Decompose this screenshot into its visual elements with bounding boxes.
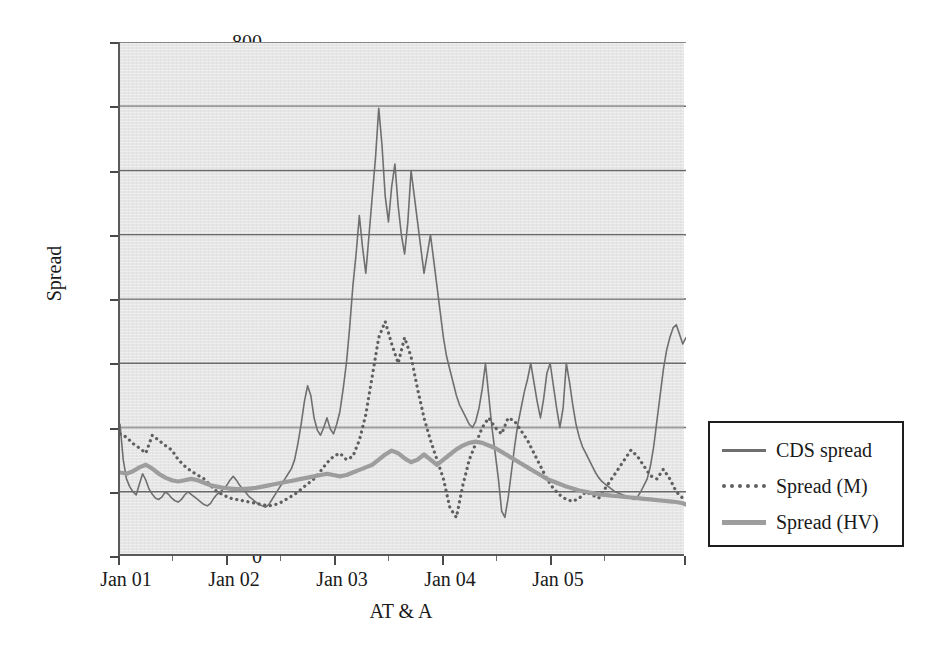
x-tick-minor: [496, 556, 497, 561]
x-tick-label: Jan 02: [174, 568, 294, 591]
x-tick-mark: [334, 556, 336, 565]
legend-thick-line-icon: [722, 516, 766, 528]
legend-label: Spread (HV): [776, 512, 879, 532]
x-tick-mark: [226, 556, 228, 565]
legend-item-spread-hv: Spread (HV): [722, 507, 898, 537]
x-axis-title: AT & A: [118, 600, 684, 623]
x-tick-mark: [442, 556, 444, 565]
legend: CDS spread Spread (M) Spread (HV): [708, 421, 904, 547]
legend-line-icon: [722, 444, 766, 456]
legend-item-spread-m: Spread (M): [722, 471, 898, 501]
x-tick-minor: [604, 556, 605, 561]
x-tick-label: Jan 05: [498, 568, 618, 591]
figure-container: 800 700 600 500 400 300 200 100 0 Spread: [0, 0, 952, 648]
legend-item-cds-spread: CDS spread: [722, 435, 898, 465]
x-tick-label: Jan 01: [66, 568, 186, 591]
x-tick-minor: [388, 556, 389, 561]
legend-dotted-line-icon: [722, 480, 766, 492]
plot-area: [118, 42, 684, 556]
x-tick-minor: [280, 556, 281, 561]
series-lines: [120, 42, 686, 556]
x-tick-mark: [118, 556, 120, 565]
legend-label: CDS spread: [776, 440, 872, 460]
y-axis-title: Spread: [43, 214, 66, 334]
x-tick-mark: [550, 556, 552, 565]
x-tick-label: Jan 04: [390, 568, 510, 591]
legend-label: Spread (M): [776, 476, 868, 496]
x-tick-minor: [172, 556, 173, 561]
x-tick-mark: [684, 556, 686, 565]
x-tick-label: Jan 03: [282, 568, 402, 591]
